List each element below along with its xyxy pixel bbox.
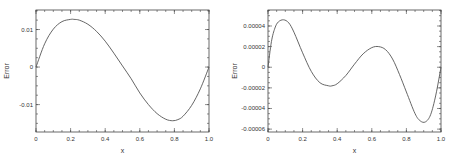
error-chart-left: 00.20.40.60.81.00.010-0.01xError — [3, 10, 214, 154]
x-tick-label: 0.4 — [333, 136, 342, 142]
x-tick-label: 0.4 — [101, 136, 110, 142]
x-axis-label: x — [121, 147, 125, 154]
x-tick-label: 0 — [34, 136, 38, 142]
x-axis-label: x — [353, 147, 357, 154]
y-tick-label: -0.01 — [19, 102, 33, 108]
figure-canvas: 00.20.40.60.81.00.010-0.01xError 00.20.4… — [0, 0, 455, 158]
y-tick-label: -0.00006 — [241, 126, 265, 132]
x-tick-label: 0.8 — [402, 136, 411, 142]
y-tick-label: -0.00002 — [241, 85, 265, 91]
y-axis-label: Error — [3, 63, 10, 79]
x-tick-label: 0.8 — [170, 136, 179, 142]
y-tick-label: 0.00002 — [243, 44, 265, 50]
x-tick-label: 0 — [266, 136, 270, 142]
y-axis-label: Error — [231, 63, 238, 79]
y-tick-label: -0.00004 — [241, 105, 265, 111]
x-tick-label: 0.2 — [66, 136, 75, 142]
x-tick-label: 0.6 — [368, 136, 377, 142]
x-tick-label: 0.6 — [136, 136, 145, 142]
error-curve — [36, 19, 209, 121]
y-tick-label: 0 — [30, 64, 34, 70]
error-curve — [268, 20, 441, 123]
plot-frame — [36, 10, 209, 132]
y-tick-label: 0.01 — [21, 27, 33, 33]
x-tick-label: 0.2 — [298, 136, 307, 142]
x-tick-label: 1.0 — [437, 136, 446, 142]
x-tick-label: 1.0 — [205, 136, 214, 142]
y-tick-label: 0 — [262, 64, 266, 70]
error-chart-right: 00.20.40.60.81.00.000040.000020-0.00002-… — [231, 10, 446, 154]
y-tick-label: 0.00004 — [243, 23, 265, 29]
